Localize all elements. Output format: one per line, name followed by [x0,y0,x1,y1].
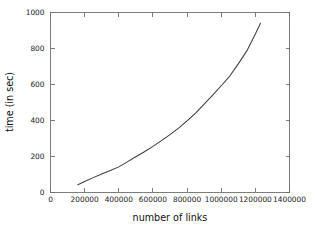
chart-figure: 02004006008001000 0200000400000600000800… [0,0,315,233]
y-tick-label: 600 [30,80,44,89]
y-tick-label: 1000 [26,8,45,17]
x-tick-label: 800000 [173,195,202,204]
x-axis-title: number of links [133,212,208,223]
y-axis-title: time (in sec) [4,72,15,132]
x-tick-label: 600000 [139,195,168,204]
x-axis-tick-labels: 0200000400000600000800000100000012000001… [48,195,306,204]
line-chart: 02004006008001000 0200000400000600000800… [0,0,315,233]
x-tick-label: 1000000 [205,195,238,204]
y-tick-label: 800 [30,44,44,53]
x-tick-label: 1400000 [273,195,306,204]
y-tick-label: 400 [30,116,44,125]
y-tick-label: 0 [40,188,45,197]
x-tick-label: 200000 [71,195,100,204]
x-tick-label: 0 [48,195,53,204]
x-tick-label: 1200000 [239,195,272,204]
y-tick-label: 200 [30,152,44,161]
x-tick-label: 400000 [105,195,134,204]
